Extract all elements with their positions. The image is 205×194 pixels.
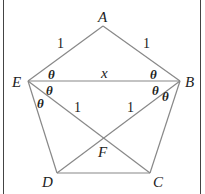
edge-AB bbox=[103, 26, 180, 81]
angle-theta-E3: θ bbox=[37, 96, 44, 111]
segment-label-EF: 1 bbox=[74, 100, 81, 115]
pentagon-diagram: A B C D E F 1 1 x 1 1 θ θ θ θ θ θ bbox=[0, 0, 205, 194]
segment-label-BF: 1 bbox=[127, 100, 134, 115]
angle-theta-B1: θ bbox=[150, 67, 157, 82]
vertex-label-D: D bbox=[41, 174, 53, 190]
angle-theta-E2: θ bbox=[46, 83, 53, 98]
vertex-label-F: F bbox=[97, 144, 108, 160]
vertex-label-A: A bbox=[97, 9, 108, 25]
angle-theta-E1: θ bbox=[48, 67, 55, 82]
diagonal-label-EB: x bbox=[100, 65, 108, 81]
side-label-EA: 1 bbox=[57, 36, 64, 51]
edge-EA bbox=[28, 26, 103, 81]
side-label-AB: 1 bbox=[143, 36, 150, 51]
angle-theta-B3: θ bbox=[162, 89, 169, 104]
vertex-label-C: C bbox=[153, 174, 164, 190]
vertex-label-E: E bbox=[11, 74, 21, 90]
vertex-label-B: B bbox=[185, 74, 194, 90]
angle-theta-B2: θ bbox=[152, 83, 159, 98]
